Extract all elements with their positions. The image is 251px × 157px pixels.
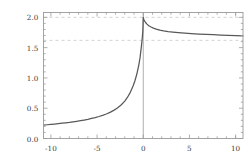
- y-tick-label-2: 1.0: [6, 73, 39, 82]
- x-tick-label-1: -5: [93, 144, 100, 153]
- y-tick-label-0: 0.0: [6, 134, 39, 143]
- y-tick-label-1: 0.5: [6, 104, 39, 113]
- plot-figure: 0.00.51.01.52.0 -10-50510: [0, 0, 251, 157]
- x-tick-label-0: -10: [45, 144, 57, 153]
- x-tick-label-4: 10: [231, 144, 240, 153]
- x-tick-label-2: 0: [141, 144, 146, 153]
- y-tick-label-3: 1.5: [6, 43, 39, 52]
- x-tick-label-3: 5: [187, 144, 192, 153]
- y-tick-label-4: 2.0: [6, 13, 39, 22]
